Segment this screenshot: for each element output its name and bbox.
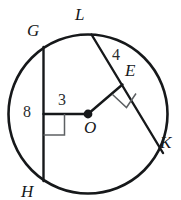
point-label-h: H (21, 183, 33, 200)
right-angle-mark-gh (44, 114, 65, 135)
measure-label-8: 8 (23, 104, 31, 120)
point-label-l: L (75, 6, 84, 23)
geometry-figure: G L E K H O 4 3 8 (0, 0, 181, 200)
point-label-g: G (27, 22, 39, 39)
point-label-k: K (160, 134, 171, 151)
measure-label-4: 4 (112, 47, 120, 63)
point-label-e: E (125, 62, 135, 79)
measure-label-3: 3 (58, 92, 66, 108)
center-label-o: O (84, 119, 96, 136)
chord-lk (92, 35, 164, 154)
